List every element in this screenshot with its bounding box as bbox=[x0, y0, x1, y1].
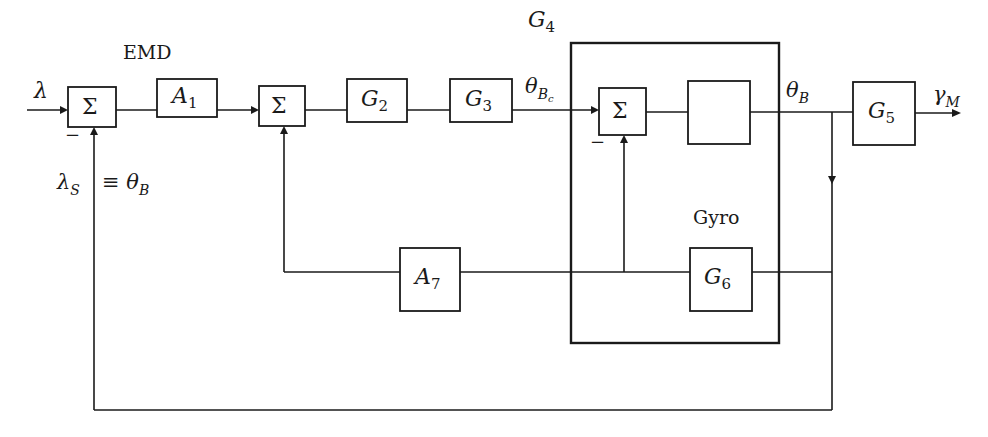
block-subscript: 3 bbox=[483, 97, 493, 115]
block-name: G bbox=[868, 98, 886, 123]
gyro-label: Gyro bbox=[693, 208, 739, 227]
subscript: S bbox=[70, 182, 80, 198]
block-name: A bbox=[415, 264, 431, 289]
arrowhead-icon bbox=[251, 106, 259, 114]
theta-symbol: θ bbox=[525, 74, 538, 98]
g5-label: G5 bbox=[868, 100, 895, 122]
block-subscript: 4 bbox=[546, 18, 556, 36]
arrowhead-icon bbox=[952, 109, 961, 117]
g6-label: G6 bbox=[704, 266, 731, 288]
diagram-wires bbox=[0, 0, 988, 437]
subscript: B bbox=[799, 90, 809, 106]
subscript: B bbox=[538, 86, 548, 102]
block-subscript: 6 bbox=[722, 275, 732, 293]
g2-label: G2 bbox=[361, 88, 388, 110]
block-name: G bbox=[361, 86, 379, 111]
block-name: A bbox=[172, 83, 188, 108]
sum2-sigma: Σ bbox=[271, 95, 287, 117]
block-name: G bbox=[528, 7, 546, 32]
arrowhead-icon bbox=[591, 106, 599, 114]
feedback-label: λS bbox=[57, 172, 80, 193]
g4-label: G4 bbox=[528, 9, 555, 31]
sum3-sigma: Σ bbox=[612, 100, 628, 122]
sum3-minus-sign: − bbox=[590, 133, 605, 151]
gamma-m-label: γM bbox=[933, 84, 960, 105]
subscript: M bbox=[946, 94, 960, 110]
arrowhead-icon bbox=[620, 135, 628, 143]
block-name: G bbox=[465, 86, 483, 111]
plant-box bbox=[688, 81, 750, 144]
a7-label: A7 bbox=[415, 266, 440, 288]
block-name: G bbox=[704, 264, 722, 289]
sub-subscript: c bbox=[548, 93, 554, 104]
arrowhead-icon bbox=[280, 126, 288, 134]
subscript: B bbox=[139, 182, 149, 198]
block-subscript: 5 bbox=[886, 109, 896, 127]
arrowhead-icon bbox=[828, 176, 836, 184]
gamma-symbol: γ bbox=[933, 82, 946, 106]
theta-b-label: θB bbox=[786, 80, 809, 101]
theta-bc-label: θBc bbox=[525, 76, 554, 97]
lambda-symbol: λ bbox=[57, 170, 70, 194]
theta-symbol: θ bbox=[786, 78, 799, 102]
emd-label: EMD bbox=[123, 43, 172, 62]
arrowhead-icon bbox=[90, 127, 98, 135]
sum1-sigma: Σ bbox=[82, 96, 98, 118]
input-lambda-label: λ bbox=[34, 80, 48, 102]
block-subscript: 7 bbox=[431, 275, 441, 293]
a1-label: A1 bbox=[172, 85, 197, 107]
equiv-theta-label: ≡ θB bbox=[102, 172, 149, 193]
g3-label: G3 bbox=[465, 88, 492, 110]
sum1-minus-sign: − bbox=[65, 126, 80, 144]
block-subscript: 2 bbox=[379, 97, 389, 115]
block-diagram: EMD λ − − λS ≡ θB Σ Σ Σ A1 G2 G3 G4 G5 G… bbox=[0, 0, 988, 437]
arrowhead-icon bbox=[60, 106, 68, 114]
block-subscript: 1 bbox=[188, 94, 198, 112]
equiv-symbol: ≡ θ bbox=[102, 170, 139, 194]
